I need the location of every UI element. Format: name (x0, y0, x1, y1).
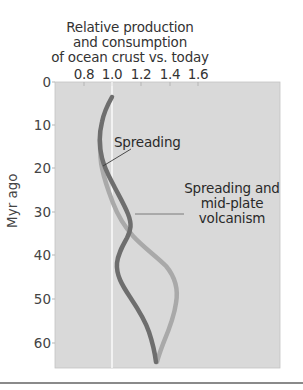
annotation-spreading: Spreading (114, 135, 181, 150)
y-tick-label: 0 (11, 74, 51, 90)
annotation-line-1: Spreading and (180, 181, 284, 196)
annotation-line-3: volcanism (180, 211, 284, 226)
x-tick-label: 1.6 (188, 66, 209, 82)
bottom-rule (0, 382, 303, 384)
x-tick-label: 1.2 (131, 66, 152, 82)
annotation-spreading-volcanism: Spreading and mid-plate volcanism (180, 181, 284, 226)
x-tick-label: 0.8 (74, 66, 95, 82)
annotation-line-2: mid-plate (180, 196, 284, 211)
y-tick-label: 60 (11, 335, 51, 351)
y-tick-label: 10 (11, 117, 51, 133)
y-tick-label: 50 (11, 291, 51, 307)
x-tick-label: 1.0 (102, 66, 123, 82)
y-axis-label: Myr ago (4, 173, 20, 228)
y-tick-label: 40 (11, 247, 51, 263)
x-tick-label: 1.4 (160, 66, 181, 82)
y-axis-ticks (52, 82, 55, 343)
